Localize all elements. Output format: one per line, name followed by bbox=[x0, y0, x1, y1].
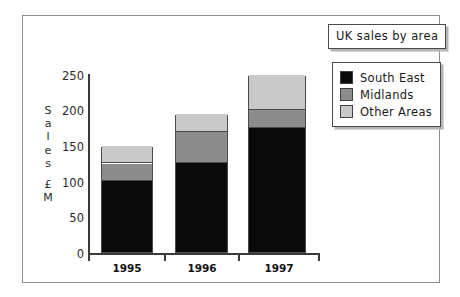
y-axis-line bbox=[88, 74, 90, 255]
y-axis-title-char: e bbox=[41, 144, 55, 157]
x-axis-tick bbox=[164, 255, 166, 261]
chart-figure: 250 200 150 100 50 0 S a l e s £ M 1995 … bbox=[0, 0, 460, 297]
bar-segment-south-east bbox=[249, 128, 305, 252]
bar-segment-other-areas bbox=[176, 114, 227, 132]
bar-1996 bbox=[175, 115, 228, 253]
legend-swatch-midlands bbox=[340, 88, 353, 101]
bar-segment-other-areas bbox=[249, 75, 305, 110]
legend-item: South East bbox=[340, 69, 432, 86]
legend-swatch-other-areas bbox=[340, 105, 353, 118]
bar-segment-south-east bbox=[102, 181, 152, 252]
y-tick-label: 200 bbox=[54, 106, 84, 117]
y-tick-label: 50 bbox=[54, 213, 84, 224]
bar-segment-midlands bbox=[176, 132, 227, 164]
y-axis-tick-labels: 250 200 150 100 50 0 bbox=[52, 0, 84, 297]
bar-segment-midlands bbox=[102, 164, 152, 182]
y-axis-title-char: a bbox=[41, 117, 55, 130]
chart-title: UK sales by area bbox=[328, 24, 446, 49]
y-axis-title-char: S bbox=[41, 104, 55, 117]
y-axis-title: S a l e s £ M bbox=[41, 104, 55, 204]
x-tick-label: 1996 bbox=[176, 262, 228, 274]
y-tick-label: 150 bbox=[54, 142, 84, 153]
x-axis-line bbox=[88, 253, 320, 255]
y-axis-title-char: £ bbox=[41, 178, 55, 191]
x-axis-tick bbox=[88, 255, 90, 261]
legend-label: South East bbox=[360, 71, 425, 85]
x-axis-tick bbox=[238, 255, 240, 261]
y-tick-label: 250 bbox=[54, 71, 84, 82]
y-axis-title-spacer bbox=[41, 170, 55, 178]
y-axis-title-char: M bbox=[41, 191, 55, 204]
x-tick-label: 1995 bbox=[101, 262, 153, 274]
bar-segment-other-areas bbox=[102, 146, 152, 164]
legend-swatch-south-east bbox=[340, 71, 353, 84]
legend-item: Midlands bbox=[340, 86, 432, 103]
x-tick-label: 1997 bbox=[251, 262, 307, 274]
y-axis-title-char: l bbox=[41, 130, 55, 143]
y-tick-label: 100 bbox=[54, 178, 84, 189]
legend-item: Other Areas bbox=[340, 103, 432, 120]
bar-segment-midlands bbox=[249, 110, 305, 128]
bar-segment-south-east bbox=[176, 163, 227, 252]
bar-1995 bbox=[101, 147, 153, 253]
legend-label: Other Areas bbox=[360, 105, 432, 119]
legend-label: Midlands bbox=[360, 88, 414, 102]
y-tick-label: 0 bbox=[54, 249, 84, 260]
chart-legend: South East Midlands Other Areas bbox=[332, 62, 441, 127]
y-axis-title-char: s bbox=[41, 157, 55, 170]
x-axis-tick bbox=[318, 255, 320, 261]
bar-1997 bbox=[248, 76, 306, 253]
